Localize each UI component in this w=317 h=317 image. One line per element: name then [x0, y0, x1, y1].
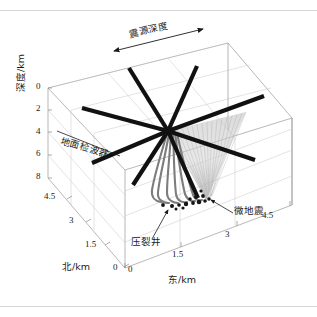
figure-canvas: 深度/km 0 2 4 6 8 北/km 4.5 3 1.5 0 东/km 0 …: [0, 0, 317, 317]
north-tick-0: 0: [113, 263, 118, 272]
north-tick-4p5: 4.5: [44, 192, 55, 201]
depth-tick-6: 6: [36, 149, 41, 158]
depth-tick-2: 2: [36, 104, 41, 113]
depth-tick-0: 0: [36, 82, 41, 91]
east-axis-title: 东/km: [168, 275, 196, 285]
depth-tick-8: 8: [36, 172, 41, 181]
east-tick-1p5: 1.5: [172, 250, 183, 259]
north-tick-1p5: 1.5: [85, 240, 96, 249]
depth-tick-4: 4: [36, 127, 41, 136]
east-tick-3: 3: [225, 230, 230, 239]
east-tick-0: 0: [128, 265, 133, 274]
north-tick-3: 3: [69, 216, 74, 225]
microseismic-label: 微地震: [234, 206, 264, 216]
depth-axis-title: 深度/km: [16, 54, 26, 92]
frac-well-label: 压裂井: [131, 237, 161, 247]
3d-scene: [0, 0, 317, 317]
north-axis-title: 北/km: [62, 262, 90, 272]
frac-well-leader: [152, 210, 168, 239]
